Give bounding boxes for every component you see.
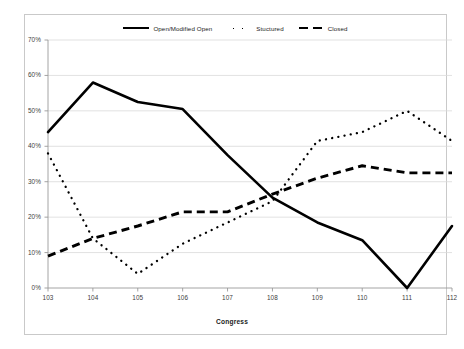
x-axis-title: Congress <box>0 318 464 325</box>
y-axis-tick-label: 40% <box>15 142 41 149</box>
x-axis-tick-label: 112 <box>438 294 464 301</box>
x-axis-tick-label: 111 <box>393 294 421 301</box>
x-axis-tick-label: 110 <box>348 294 376 301</box>
y-axis-tick-label: 10% <box>15 249 41 256</box>
y-axis-tick-label: 70% <box>15 36 41 43</box>
y-axis-tick-label: 60% <box>15 71 41 78</box>
x-axis-tick-label: 105 <box>124 294 152 301</box>
chart-legend: Open/Modified Open Stuctured Closed <box>24 20 447 36</box>
x-axis-tick-label: 106 <box>169 294 197 301</box>
legend-label: Open/Modified Open <box>153 25 212 32</box>
chart-container: Open/Modified Open Stuctured Closed 0%10… <box>0 0 464 349</box>
dotted-line-swatch-icon <box>226 25 252 32</box>
legend-label: Stuctured <box>256 25 283 32</box>
y-axis-tick-label: 50% <box>15 107 41 114</box>
chart-frame <box>24 14 447 335</box>
y-axis-tick-label: 20% <box>15 213 41 220</box>
solid-line-swatch-icon <box>123 25 149 32</box>
x-axis-tick-label: 108 <box>258 294 286 301</box>
x-axis-tick-label: 107 <box>214 294 242 301</box>
legend-item-closed[interactable]: Closed <box>298 25 348 32</box>
dashed-line-swatch-icon <box>298 25 324 32</box>
x-axis-tick-label: 103 <box>34 294 62 301</box>
legend-label: Closed <box>328 25 348 32</box>
x-axis-tick-label: 109 <box>303 294 331 301</box>
legend-item-open-modified-open[interactable]: Open/Modified Open <box>123 25 212 32</box>
y-axis-tick-label: 30% <box>15 178 41 185</box>
y-axis-tick-label: 0% <box>15 284 41 291</box>
x-axis-tick-label: 104 <box>79 294 107 301</box>
legend-item-stuctured[interactable]: Stuctured <box>226 25 283 32</box>
